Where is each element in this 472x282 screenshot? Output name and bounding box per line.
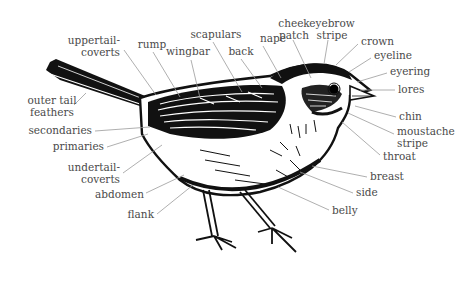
leader-line-abdomen	[146, 175, 184, 193]
leader-line-chin	[355, 106, 396, 117]
leader-line-throat	[342, 122, 380, 155]
label-uppertail-coverts: uppertail-coverts	[68, 34, 121, 58]
label-breast: breast	[370, 170, 405, 182]
label-line: patch	[279, 29, 309, 41]
label-line: secondaries	[28, 124, 92, 136]
label-primaries: primaries	[53, 140, 104, 152]
label-eyering: eyering	[390, 65, 430, 77]
bird-topography-diagram: uppertail-covertsrumpwingbarscapularsbac…	[0, 0, 472, 282]
label-line: undertail-	[68, 161, 121, 173]
label-line: chin	[399, 110, 422, 122]
leader-line-moustache-stripe	[348, 113, 394, 134]
label-lores: lores	[398, 83, 424, 95]
leader-line-breast	[312, 166, 367, 177]
label-line: uppertail-	[68, 34, 121, 46]
label-line: wingbar	[166, 45, 211, 57]
label-line: throat	[383, 150, 417, 162]
label-belly: belly	[332, 204, 358, 216]
label-line: outer tail	[27, 94, 77, 106]
label-line: breast	[370, 170, 405, 182]
leader-line-flank	[157, 185, 193, 214]
label-line: eyeline	[374, 49, 412, 61]
label-line: belly	[332, 204, 358, 216]
label-crown: crown	[361, 35, 394, 47]
leader-line-side	[300, 172, 353, 193]
label-side: side	[356, 186, 378, 198]
label-eyeline: eyeline	[374, 49, 412, 61]
label-line: flank	[128, 208, 155, 220]
leader-line-nape	[263, 46, 281, 78]
label-line: scapulars	[190, 28, 241, 40]
leader-line-eyering	[357, 73, 387, 82]
label-line: primaries	[53, 140, 104, 152]
label-line: stripe	[397, 137, 428, 149]
leader-line-primaries	[107, 134, 148, 147]
label-line: eyebrow	[309, 17, 354, 29]
leader-line-undertail-coverts	[123, 145, 162, 173]
leader-line-belly	[278, 187, 329, 210]
legs	[196, 190, 296, 252]
label-outer-tail-feathers: outer tailfeathers	[27, 94, 77, 118]
leader-line-crown	[336, 44, 358, 65]
label-eyebrow-stripe: eyebrowstripe	[309, 17, 354, 41]
label-back: back	[228, 45, 254, 57]
label-line: cheek	[278, 17, 310, 29]
label-line: rump	[138, 38, 167, 50]
label-line: crown	[361, 35, 394, 47]
label-throat: throat	[383, 150, 417, 162]
label-line: eyering	[390, 65, 430, 77]
label-line: stripe	[317, 29, 348, 41]
label-wingbar: wingbar	[166, 45, 211, 57]
leader-line-eyeline	[349, 58, 371, 72]
label-chin: chin	[399, 110, 422, 122]
bird-illustration	[46, 59, 374, 252]
label-line: feathers	[30, 106, 74, 118]
label-line: coverts	[81, 46, 120, 58]
label-rump: rump	[138, 38, 167, 50]
label-scapulars: scapulars	[190, 28, 241, 40]
leader-line-uppertail-coverts	[124, 50, 156, 95]
label-abdomen: abdomen	[95, 188, 144, 200]
label-line: coverts	[81, 173, 120, 185]
leader-line-eyebrow-stripe	[324, 40, 328, 64]
label-line: side	[356, 186, 378, 198]
eye	[330, 85, 339, 94]
label-cheek-patch: cheekpatch	[278, 17, 310, 41]
label-line: lores	[398, 83, 424, 95]
label-secondaries: secondaries	[28, 124, 92, 136]
label-line: moustache	[397, 125, 455, 137]
label-moustache-stripe: moustachestripe	[397, 125, 455, 149]
label-line: back	[228, 45, 254, 57]
label-flank: flank	[128, 208, 155, 220]
label-undertail-coverts: undertail-coverts	[68, 161, 121, 185]
label-line: abdomen	[95, 188, 144, 200]
